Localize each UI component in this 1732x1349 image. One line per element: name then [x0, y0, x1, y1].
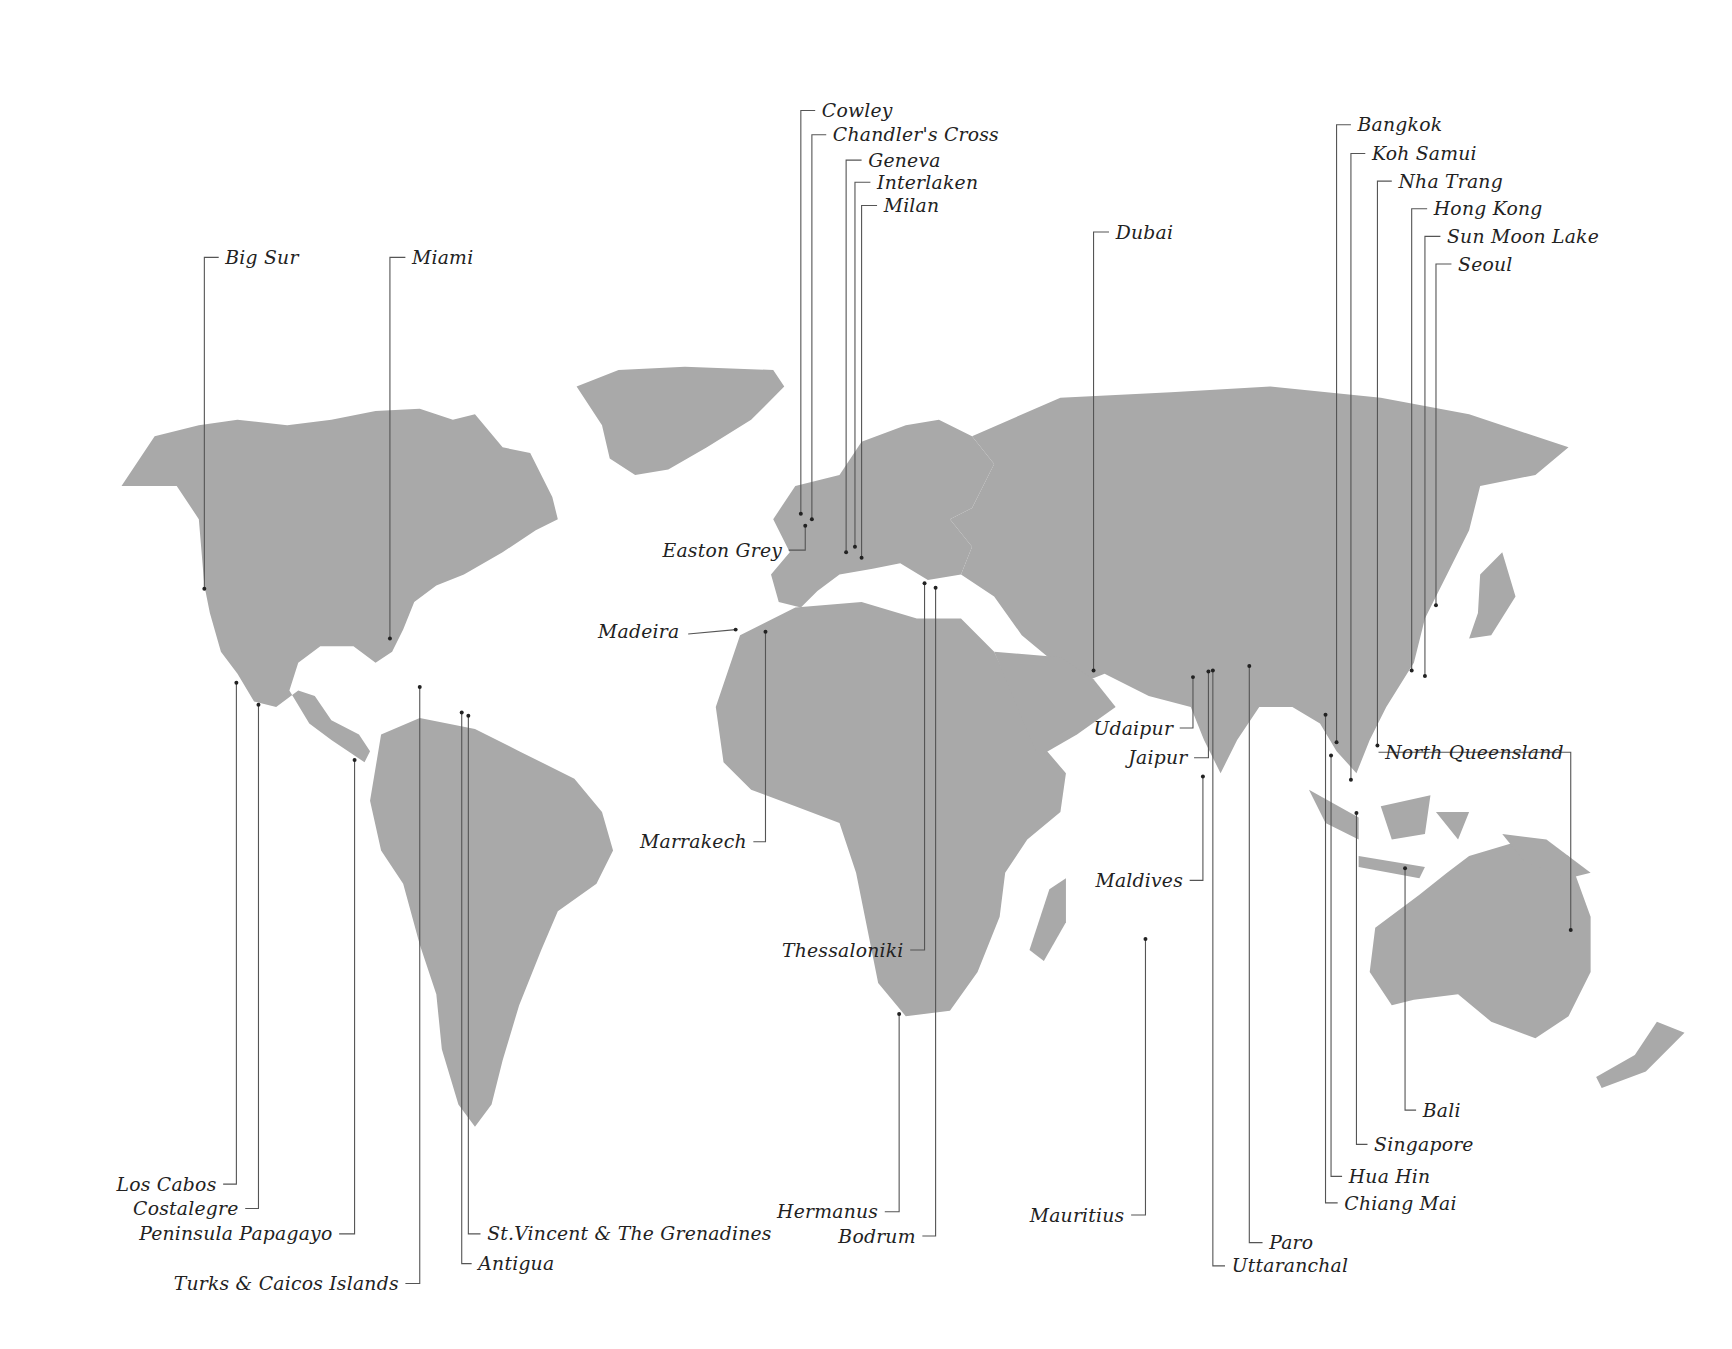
location-marker-singapore [1354, 811, 1358, 815]
location-label-koh-samui: Koh Samui [1372, 142, 1477, 164]
location-label-uttaranchal: Uttaranchal [1232, 1255, 1349, 1277]
location-label-antigua: Antigua [478, 1253, 554, 1275]
location-marker-koh-samui [1349, 778, 1353, 782]
europe-shape [771, 420, 994, 608]
location-label-hong-kong: Hong Kong [1434, 198, 1543, 220]
location-marker-dubai [1092, 669, 1096, 673]
location-label-sun-moon-lake: Sun Moon Lake [1447, 225, 1599, 247]
location-label-dubai: Dubai [1116, 221, 1173, 243]
location-marker-bangkok [1335, 740, 1339, 744]
leader-line-los-cabos [223, 683, 236, 1184]
location-label-miami: Miami [412, 246, 473, 268]
leader-line-maldives [1190, 777, 1203, 881]
location-label-thessaloniki: Thessaloniki [782, 939, 904, 961]
location-marker-miami [388, 636, 392, 640]
location-label-peninsula-papagayo: Peninsula Papagayo [139, 1223, 332, 1245]
location-label-maldives: Maldives [1095, 869, 1183, 891]
greenland-shape [577, 367, 785, 475]
location-marker-antigua [460, 710, 464, 714]
leader-line-madeira [688, 630, 735, 634]
location-label-costalegre: Costalegre [133, 1197, 238, 1219]
location-marker-sun-moon-lake [1423, 674, 1427, 678]
location-label-chiang-mai: Chiang Mai [1344, 1192, 1456, 1214]
location-marker-costalegre [256, 703, 260, 707]
location-marker-chandler-s-cross [810, 517, 814, 521]
leader-line-mauritius [1131, 939, 1145, 1215]
location-label-milan: Milan [884, 194, 940, 216]
location-label-marrakech: Marrakech [640, 831, 747, 853]
location-marker-easton-grey [803, 524, 807, 528]
location-label-turks-caicos-islands: Turks & Caicos Islands [174, 1272, 399, 1294]
location-marker-madeira [734, 628, 738, 632]
location-label-paro: Paro [1269, 1232, 1313, 1254]
location-label-geneva: Geneva [868, 149, 940, 171]
leader-line-costalegre [245, 705, 258, 1209]
location-label-chandler-s-cross: Chandler's Cross [833, 124, 999, 146]
location-marker-uttaranchal [1211, 669, 1215, 673]
madagascar-shape [1029, 878, 1065, 961]
location-label-seoul: Seoul [1458, 253, 1512, 275]
world-map: Big SurMiamiCowleyChandler's CrossGeneva… [0, 0, 1732, 1349]
location-marker-hua-hin [1329, 754, 1333, 758]
location-marker-interlaken [853, 545, 857, 549]
location-marker-north-queensland [1569, 928, 1573, 932]
leader-line-chandler-s-cross [812, 135, 826, 519]
leader-line-cowley [801, 110, 815, 513]
location-marker-st-vincent-the-grenadines [466, 714, 470, 718]
location-label-bali: Bali [1423, 1099, 1461, 1121]
location-marker-marrakech [763, 630, 767, 634]
location-marker-peninsula-papagayo [353, 758, 357, 762]
location-marker-geneva [844, 550, 848, 554]
location-label-interlaken: Interlaken [877, 171, 978, 193]
leader-line-peninsula-papagayo [339, 760, 354, 1234]
location-marker-los-cabos [234, 681, 238, 685]
location-label-nha-trang: Nha Trang [1398, 170, 1503, 192]
location-marker-milan [860, 556, 864, 560]
location-marker-paro [1247, 664, 1251, 668]
leader-line-hermanus [885, 1014, 899, 1212]
north-america-shape [122, 409, 558, 762]
location-marker-udaipur [1191, 675, 1195, 679]
location-label-big-sur: Big Sur [225, 246, 298, 268]
location-marker-big-sur [202, 587, 206, 591]
location-label-north-queensland: North Queensland [1385, 741, 1564, 763]
japan-shape [1469, 552, 1515, 638]
south-america-shape [370, 718, 613, 1127]
location-marker-hong-kong [1410, 669, 1414, 673]
location-marker-maldives [1201, 775, 1205, 779]
location-marker-nha-trang [1375, 744, 1379, 748]
location-marker-jaipur [1206, 670, 1210, 674]
location-label-mauritius: Mauritius [1030, 1204, 1125, 1226]
location-marker-bodrum [934, 586, 938, 590]
leader-line-paro [1249, 666, 1262, 1243]
location-label-madeira: Madeira [598, 621, 679, 643]
location-marker-seoul [1434, 603, 1438, 607]
location-label-bangkok: Bangkok [1358, 114, 1443, 136]
location-label-hermanus: Hermanus [777, 1201, 878, 1223]
location-label-st-vincent-the-grenadines: St.Vincent & The Grenadines [487, 1223, 772, 1245]
location-label-udaipur: Udaipur [1093, 717, 1173, 739]
location-label-cowley: Cowley [822, 99, 893, 121]
location-marker-thessaloniki [923, 581, 927, 585]
location-label-singapore: Singapore [1374, 1133, 1474, 1155]
location-marker-chiang-mai [1324, 713, 1328, 717]
location-marker-turks-caicos-islands [418, 685, 422, 689]
location-marker-cowley [799, 512, 803, 516]
location-marker-hermanus [897, 1012, 901, 1016]
new-zealand-shape [1596, 1022, 1684, 1088]
location-marker-mauritius [1143, 937, 1147, 941]
location-label-hua-hin: Hua Hin [1349, 1165, 1431, 1187]
location-label-los-cabos: Los Cabos [117, 1173, 217, 1195]
location-label-easton-grey: Easton Grey [662, 539, 782, 561]
location-label-jaipur: Jaipur [1128, 747, 1187, 769]
location-label-bodrum: Bodrum [838, 1225, 915, 1247]
location-marker-bali [1403, 866, 1407, 870]
indonesia-shape [1309, 790, 1469, 878]
